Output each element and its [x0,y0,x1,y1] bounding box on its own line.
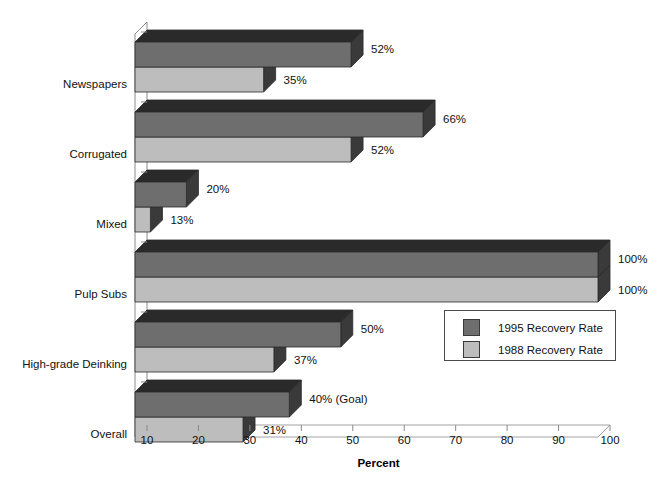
x-tick-label: 30 [243,434,256,446]
bar-value-label: 13% [170,214,193,226]
bar-chart: 102030405060708090100NewspapersCorrugate… [0,0,668,494]
bar-value-label: 35% [284,74,307,86]
legend-item[interactable]: 1988 Recovery Rate [463,341,603,358]
x-axis-title: Percent [357,457,399,469]
bar-face [135,380,301,392]
x-tick-label: 50 [346,434,359,446]
legend-label: 1988 Recovery Rate [498,344,603,356]
y-category-label: Overall [91,428,127,440]
bar-face [135,67,264,92]
bar-value-label: 52% [371,144,394,156]
bar-value-label: 52% [371,43,394,55]
bar-value-label: 20% [206,183,229,195]
y-category-label: Mixed [96,218,127,230]
x-tick-label: 80 [501,434,514,446]
bar-face [135,310,353,322]
x-tick-label: 20 [192,434,205,446]
bar-face [135,252,598,277]
legend-swatch-icon [463,319,480,336]
bar-face [135,347,274,372]
y-category-label: Corrugated [69,148,127,160]
x-tick-label: 100 [600,434,619,446]
bar-face [135,30,363,42]
y-category-label: Newspapers [63,78,127,90]
bar-value-label: 37% [294,354,317,366]
x-tick-label: 70 [449,434,462,446]
bar-face [135,392,289,417]
legend-swatch-icon [463,341,480,358]
legend-item[interactable]: 1995 Recovery Rate [463,319,603,336]
bar-face [135,112,423,137]
bar-face [135,100,435,112]
bar-face [135,42,351,67]
bar-value-label: 31% [263,424,286,436]
bar-face [135,277,598,302]
bar-face [135,322,341,347]
x-tick-label: 60 [398,434,411,446]
bar-value-label: 40% (Goal) [309,393,367,405]
y-category-label: High-grade Deinking [22,358,127,370]
bar-value-label: 100% [618,253,647,265]
bar-value-label: 66% [443,113,466,125]
x-tick-label: 40 [295,434,308,446]
y-category-label: Pulp Subs [75,288,127,300]
chart-legend: 1995 Recovery Rate1988 Recovery Rate [444,310,616,361]
bar-face [135,182,186,207]
bar-face [135,137,351,162]
bar-value-label: 50% [361,323,384,335]
x-tick-label: 90 [552,434,565,446]
chart-canvas [0,0,668,494]
bar-value-label: 100% [618,284,647,296]
bar-face [135,207,150,232]
legend-label: 1995 Recovery Rate [498,322,603,334]
x-tick-label: 10 [141,434,154,446]
bar-face [135,240,610,252]
